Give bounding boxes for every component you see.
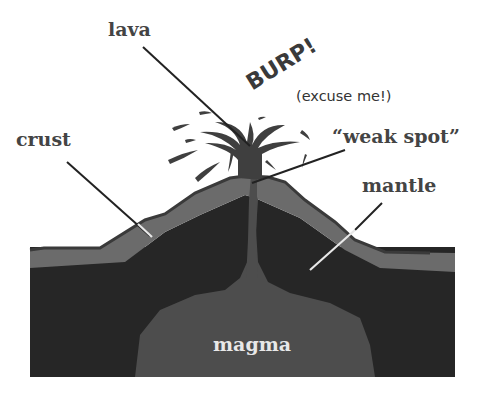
weak-spot-leader-line [252, 150, 345, 183]
volcano-diagram: lava BURP! (excuse me!) crust “weak spot… [0, 0, 490, 394]
lava-eruption [168, 111, 310, 182]
label-crust: crust [16, 128, 71, 150]
label-mantle: mantle [362, 174, 436, 196]
label-weak-spot: “weak spot” [332, 125, 460, 147]
label-lava: lava [108, 18, 151, 40]
lava-leader-line [143, 47, 250, 146]
label-excuse-me: (excuse me!) [296, 88, 391, 104]
mantle-leader-line [355, 203, 382, 230]
label-magma: magma [213, 333, 291, 355]
